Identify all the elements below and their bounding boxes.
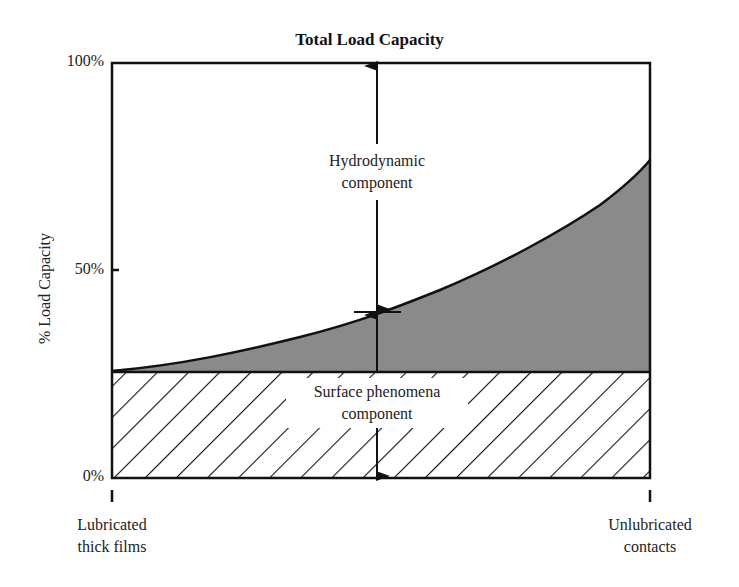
x-label-right: Unlubricated contacts (580, 514, 720, 558)
y-axis-label: % Load Capacity (36, 233, 54, 344)
surface-phenomena-label-line1: Surface phenomena (287, 381, 467, 403)
hydrodynamic-label-line2: component (297, 172, 457, 194)
x-label-left: Lubricated thick films (42, 514, 182, 558)
hydrodynamic-label: Hydrodynamic component (297, 150, 457, 194)
x-label-left-line1: Lubricated (42, 514, 182, 536)
x-label-right-line2: contacts (580, 536, 720, 558)
y-tick-label-100: 100% (44, 52, 104, 70)
x-label-right-line1: Unlubricated (580, 514, 720, 536)
surface-phenomena-label: Surface phenomena component (287, 381, 467, 425)
hydrodynamic-label-line1: Hydrodynamic (297, 150, 457, 172)
chart-title: Total Load Capacity (0, 30, 739, 50)
chart-canvas (0, 0, 739, 587)
y-tick-label-0: 0% (44, 467, 104, 485)
x-label-left-line2: thick films (42, 536, 182, 558)
surface-phenomena-label-line2: component (287, 403, 467, 425)
